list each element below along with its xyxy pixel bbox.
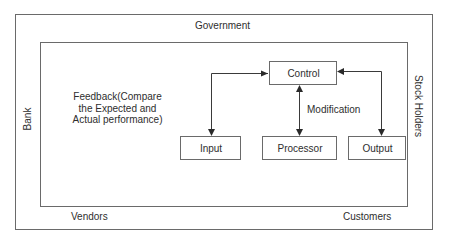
label-vendors: Vendors <box>71 211 108 223</box>
output-label: Output <box>349 137 406 160</box>
arrowhead-to-control-right <box>337 68 344 75</box>
control-label: Control <box>270 62 337 85</box>
input-label: Input <box>181 137 241 160</box>
processor-label: Processor <box>263 137 337 160</box>
arrowhead-to-processor <box>296 129 303 136</box>
diagram-canvas <box>0 0 449 242</box>
arrowhead-to-control-middle <box>296 85 303 92</box>
arrow-output-control <box>343 72 382 131</box>
label-modification: Modification <box>307 104 360 116</box>
label-government: Government <box>195 20 250 32</box>
label-bank: Bank <box>22 104 34 134</box>
label-stock-holders: Stock Holders <box>412 71 424 141</box>
label-customers: Customers <box>343 211 391 223</box>
arrow-input-control <box>212 74 269 136</box>
feedback-note: Feedback(Compare the Expected and Actual… <box>70 91 165 126</box>
arrowhead-to-output <box>378 129 385 136</box>
arrowhead-to-input <box>208 129 215 136</box>
